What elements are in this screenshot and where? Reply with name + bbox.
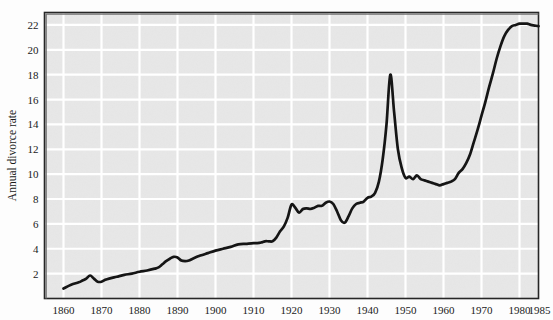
x-axis-tick-label: 1930: [319, 304, 342, 316]
x-axis-tick-label: 1870: [91, 304, 114, 316]
x-axis-tick-label: 1880: [129, 304, 152, 316]
x-axis-tick-label: 1970: [471, 304, 494, 316]
x-axis-tick-label: 1890: [167, 304, 190, 316]
x-axis-tick-label: 1950: [395, 304, 418, 316]
y-axis-tick-label: 22: [28, 19, 39, 31]
chart-page: 2468101214161820221860187018801890190019…: [0, 0, 553, 320]
y-axis-tick-label: 16: [28, 94, 40, 106]
x-axis-tick-label: 1900: [205, 304, 228, 316]
y-axis-tick-label: 2: [33, 268, 39, 280]
annual-divorce-rate-line-chart: 2468101214161820221860187018801890190019…: [0, 0, 553, 320]
y-axis-tick-label: 4: [33, 243, 39, 255]
y-axis-title: Annual divorce rate: [6, 110, 18, 201]
y-axis-tick-label: 14: [28, 118, 40, 130]
y-axis-tick-label: 12: [28, 143, 39, 155]
chart-canvas: 2468101214161820221860187018801890190019…: [0, 0, 553, 320]
y-axis-tick-label: 10: [28, 168, 40, 180]
x-axis-tick-label: 1960: [433, 304, 456, 316]
x-axis-tick-label: 1860: [53, 304, 76, 316]
x-axis-tick-label: 1910: [243, 304, 266, 316]
y-axis-tick-label: 6: [33, 218, 39, 230]
y-axis-tick-label: 20: [28, 44, 40, 56]
x-axis-tick-label: 1940: [357, 304, 380, 316]
y-axis-tick-label: 8: [33, 193, 39, 205]
x-axis-tick-label: 1985: [529, 304, 552, 316]
y-axis-tick-label: 18: [28, 69, 40, 81]
x-axis-tick-label: 1920: [281, 304, 304, 316]
